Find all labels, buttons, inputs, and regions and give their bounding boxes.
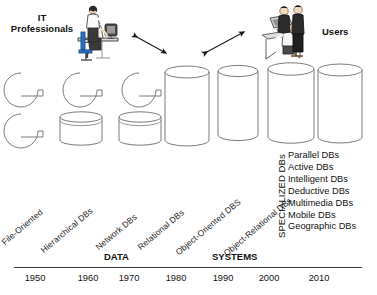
it-professionals-label-line1: IT	[8, 12, 76, 23]
list-item: Mobile DBs	[288, 210, 356, 222]
list-item: Active DBs	[288, 162, 356, 174]
users-label: Users	[322, 26, 368, 37]
list-item: Deductive DBs	[288, 186, 356, 198]
file-folder-shape	[63, 73, 102, 107]
cylinder-short-shape	[60, 112, 102, 145]
cylinder-tall-shape	[318, 64, 362, 143]
arrow-left-double	[135, 36, 164, 52]
timeline-year: 1990	[206, 273, 240, 283]
timeline-year: 2000	[252, 273, 286, 283]
arrow-right-double	[205, 33, 242, 53]
era-label-network-dbs: Network DBs	[94, 212, 139, 252]
diagram-vector-layer	[0, 0, 377, 295]
list-item: Geographic DBs	[288, 221, 356, 233]
list-item: Multimedia DBs	[288, 198, 356, 210]
cylinder-tall-shape	[165, 66, 209, 146]
file-folder-shape	[4, 114, 43, 148]
cylinder-short-shape	[119, 112, 161, 145]
timeline-year: 1980	[159, 273, 193, 283]
timeline-year: 1950	[18, 273, 52, 283]
cylinder-tall-shape	[268, 63, 314, 143]
it-professionals-label: IT Professionals	[8, 12, 76, 34]
timeline-year: 1970	[112, 273, 146, 283]
list-item: Intelligent DBs	[288, 174, 356, 186]
users-clipart	[258, 2, 316, 64]
band-label-data: DATA	[104, 251, 129, 262]
era-label-file-oriented: File-Oriented	[0, 207, 45, 247]
figure-canvas: IT Professionals Users	[0, 0, 377, 295]
timeline-year: 2010	[302, 273, 336, 283]
file-folder-shape	[4, 73, 43, 107]
specialized-dbs-heading: SPECIALIZED DBs	[276, 154, 287, 238]
it-professionals-clipart	[72, 2, 126, 64]
cylinder-tall-shape	[218, 65, 258, 140]
it-professionals-label-line2: Professionals	[8, 23, 76, 34]
band-label-systems: SYSTEMS	[212, 251, 257, 262]
timeline-year: 1960	[71, 273, 105, 283]
specialized-dbs-list: Parallel DBs Active DBs Intelligent DBs …	[288, 150, 356, 233]
list-item: Parallel DBs	[288, 150, 356, 162]
timeline-axis	[14, 267, 362, 268]
file-folder-shape	[122, 73, 161, 107]
era-label-hierarchical-dbs: Hierarchical DBs	[39, 206, 95, 255]
